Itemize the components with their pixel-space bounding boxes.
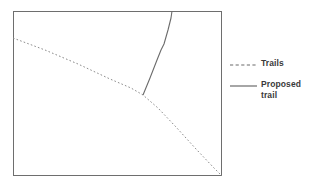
map-frame bbox=[14, 12, 222, 176]
solid-line-icon bbox=[230, 80, 257, 92]
legend-label-proposed-trail: Proposed trail bbox=[257, 79, 301, 100]
legend-label-trails: Trails bbox=[257, 58, 284, 69]
legend-entry-trails: Trails bbox=[230, 58, 317, 71]
trail-map-figure: Trails Proposed trail bbox=[0, 0, 317, 186]
legend-entry-proposed-trail: Proposed trail bbox=[230, 79, 317, 100]
map-legend: Trails Proposed trail bbox=[230, 58, 317, 108]
dashed-line-icon bbox=[230, 59, 257, 71]
